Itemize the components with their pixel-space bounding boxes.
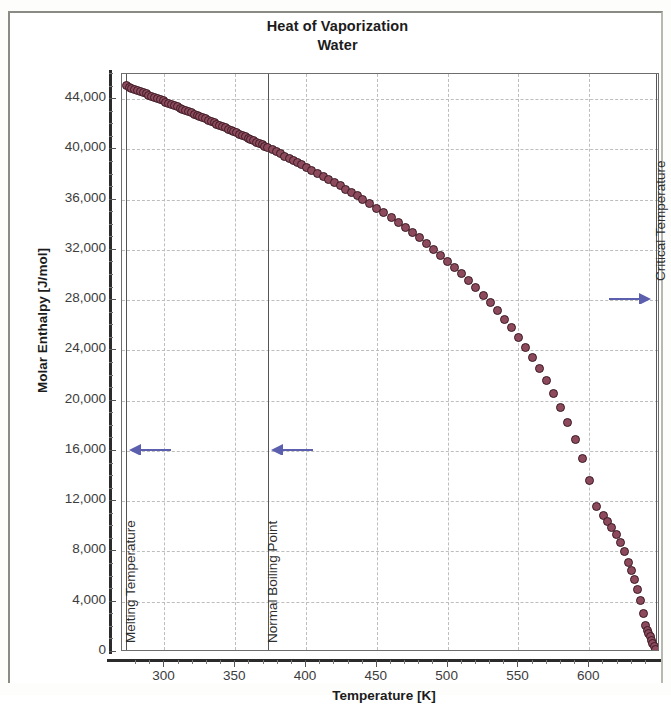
data-point: [521, 343, 530, 352]
y-axis-tick-label: 4,000: [34, 592, 106, 607]
x-axis-line: [107, 659, 661, 662]
y-axis-minor-tick: [109, 186, 113, 187]
x-axis-tick: [447, 660, 448, 667]
annotation-arrow-normal-boiling-point: [271, 444, 313, 455]
x-axis-minor-tick: [503, 660, 504, 664]
gridline-horizontal: [122, 200, 658, 201]
chart-title: Heat of Vaporization: [10, 17, 665, 36]
x-axis-minor-tick: [418, 660, 419, 664]
y-axis-minor-tick: [109, 123, 113, 124]
x-axis-minor-tick: [404, 660, 405, 664]
y-axis-minor-tick: [109, 525, 113, 526]
y-axis-tick-label: 0: [34, 642, 106, 657]
x-axis-minor-tick: [461, 660, 462, 664]
x-axis-tick: [517, 660, 518, 667]
data-point: [636, 596, 645, 605]
x-axis-minor-tick: [560, 660, 561, 664]
x-axis-tick-label: 300: [133, 668, 193, 683]
x-axis-minor-tick: [546, 660, 547, 664]
gridline-vertical: [589, 74, 590, 650]
annotation-arrow-critical-temperature: [609, 293, 651, 304]
y-axis-tick: [109, 199, 116, 200]
x-axis-minor-tick: [348, 660, 349, 664]
data-point: [528, 353, 537, 362]
y-axis-minor-tick: [109, 362, 113, 363]
x-axis-minor-tick: [432, 660, 433, 664]
x-axis-tick-label: 600: [558, 668, 618, 683]
gridline-horizontal: [122, 501, 658, 502]
data-point: [493, 306, 502, 315]
data-point: [592, 502, 601, 511]
x-axis-minor-tick: [248, 660, 249, 664]
x-axis-minor-tick: [277, 660, 278, 664]
data-point: [471, 283, 480, 292]
y-axis-minor-tick: [109, 312, 113, 313]
gridline-horizontal: [122, 350, 658, 351]
y-axis-minor-tick: [109, 73, 113, 74]
x-axis-title: Temperature [K]: [107, 688, 661, 703]
gridline-horizontal: [122, 300, 658, 301]
x-axis-tick: [588, 660, 589, 667]
y-axis-minor-tick: [109, 412, 113, 413]
gridline-horizontal: [122, 99, 658, 100]
x-axis-minor-tick: [333, 660, 334, 664]
y-axis-minor-tick: [109, 576, 113, 577]
y-axis-minor-tick: [109, 287, 113, 288]
data-point: [514, 333, 523, 342]
y-axis-title: Molar Enthalpy [J/mol]: [35, 221, 50, 421]
x-axis-tick: [234, 660, 235, 667]
y-axis-tick-label: 44,000: [34, 89, 106, 104]
data-point: [627, 566, 636, 575]
y-axis-minor-tick: [109, 613, 113, 614]
y-axis-tick: [109, 550, 116, 551]
y-axis-tick: [109, 400, 116, 401]
y-axis-tick-label: 8,000: [34, 541, 106, 556]
x-axis-minor-tick: [532, 660, 533, 664]
gridline-horizontal: [122, 451, 658, 452]
y-axis-tick: [109, 249, 116, 250]
x-axis-minor-tick: [319, 660, 320, 664]
y-axis-tick-label: 40,000: [34, 139, 106, 154]
y-axis-minor-tick: [109, 324, 113, 325]
x-axis-tick-label: 550: [487, 668, 547, 683]
x-axis-tick: [163, 660, 164, 667]
x-axis-minor-tick: [390, 660, 391, 664]
y-axis-minor-tick: [109, 274, 113, 275]
y-axis-minor-tick: [109, 211, 113, 212]
y-axis-minor-tick: [109, 136, 113, 137]
y-axis-minor-tick: [109, 425, 113, 426]
y-axis-minor-tick: [109, 224, 113, 225]
data-point: [616, 538, 625, 547]
y-axis-minor-tick: [109, 236, 113, 237]
y-axis-minor-tick: [109, 563, 113, 564]
y-axis-tick: [109, 148, 116, 149]
y-axis-minor-tick: [109, 375, 113, 376]
gridline-horizontal: [122, 149, 658, 150]
data-point: [556, 403, 565, 412]
gridline-horizontal: [122, 250, 658, 251]
data-point: [563, 418, 572, 427]
x-axis-minor-tick: [291, 660, 292, 664]
data-point: [500, 315, 509, 324]
y-axis-tick-label: 12,000: [34, 491, 106, 506]
x-axis-minor-tick: [263, 660, 264, 664]
annotation-label-melting-temperature: Melting Temperature: [123, 520, 138, 643]
y-axis-minor-tick: [109, 261, 113, 262]
data-point: [535, 364, 544, 373]
x-axis-minor-tick: [475, 660, 476, 664]
data-point: [630, 575, 639, 584]
data-point: [639, 609, 648, 618]
y-axis-tick: [109, 349, 116, 350]
x-axis-minor-tick: [617, 660, 618, 664]
x-axis-minor-tick: [220, 660, 221, 664]
x-axis-minor-tick: [149, 660, 150, 664]
x-axis-tick: [305, 660, 306, 667]
y-axis-tick-label: 36,000: [34, 190, 106, 205]
y-axis-minor-tick: [109, 463, 113, 464]
y-axis-minor-tick: [109, 337, 113, 338]
x-axis-tick-label: 400: [275, 668, 335, 683]
x-axis-minor-tick: [602, 660, 603, 664]
y-axis-minor-tick: [109, 387, 113, 388]
y-axis-minor-tick: [109, 626, 113, 627]
